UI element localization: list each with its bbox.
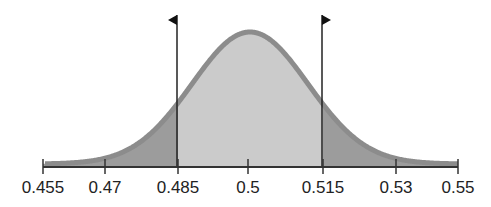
tick-label: 0.5: [236, 178, 260, 197]
tick-label: 0.455: [22, 178, 65, 197]
region-center: [178, 32, 323, 167]
flag-right-icon: [322, 15, 331, 25]
tick-label: 0.47: [88, 178, 121, 197]
shaded-regions: [43, 32, 458, 167]
tick-label: 0.485: [157, 178, 200, 197]
tick-label: 0.55: [441, 178, 474, 197]
normal-distribution-chart: 0.4550.470.4850.50.5150.530.55: [0, 0, 491, 207]
tick-label: 0.53: [379, 178, 412, 197]
tick-label: 0.515: [302, 178, 345, 197]
flag-left-icon: [168, 15, 177, 25]
